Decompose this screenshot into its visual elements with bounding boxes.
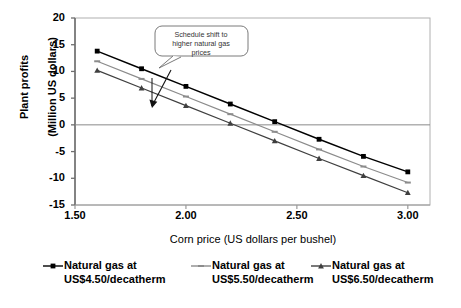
legend-label-line2: US$4.50/decatherm [64,272,166,286]
annotation-line-2: higher natural gas [160,39,242,48]
chart-legend: Natural gas atUS$4.50/decathermNatural g… [0,258,461,302]
series-1-point [228,102,233,107]
series-2-point [94,60,100,62]
legend-label-1: Natural gas atUS$4.50/decatherm [64,258,166,286]
legend-marker-icon [310,259,332,273]
series-2-point [360,166,366,168]
series-1-point [361,154,366,159]
series-2-point [272,131,278,133]
series-2-point [139,78,145,80]
series-2-point [316,148,322,150]
y-tick-label: 0 [25,119,65,130]
series-2-point [183,96,189,98]
x-tick-label: 2.00 [156,209,216,221]
chart-figure: Plant profits (Million US dollars) Corn … [0,0,461,308]
legend-item-2[interactable]: Natural gas atUS$5.50/decatherm [190,258,314,286]
legend-label-line2: US$5.50/decatherm [212,272,314,286]
series-1-point [405,169,410,174]
legend-label-line1: Natural gas at [332,258,434,272]
legend-label-3: Natural gas atUS$6.50/decatherm [332,258,434,286]
annotation-callout-text: Schedule shift to higher natural gas pri… [160,30,242,57]
series-1-point [95,49,100,54]
y-tick-label: 10 [25,65,65,76]
plot-frame [75,18,430,205]
annotation-line-1: Schedule shift to [160,30,242,39]
legend-label-line1: Natural gas at [64,258,166,272]
series-2-point [405,182,411,184]
series-1-point [184,84,189,89]
legend-marker-icon [42,259,64,273]
legend-marker-icon [190,259,212,273]
legend-item-1[interactable]: Natural gas atUS$4.50/decatherm [42,258,166,286]
y-tick-label: 15 [25,39,65,50]
series-2-point [227,113,233,115]
series-1-point [139,66,144,71]
legend-label-line2: US$6.50/decatherm [332,272,434,286]
y-tick-label: -5 [25,146,65,157]
series-1-point [317,137,322,142]
y-tick-label: -10 [25,172,65,183]
y-tick-label: 5 [25,92,65,103]
x-axis-title: Corn price (US dollars per bushel) [75,233,431,245]
y-tick-label: 20 [25,12,65,23]
legend-label-2: Natural gas atUS$5.50/decatherm [212,258,314,286]
x-tick-label: 1.50 [45,209,105,221]
annotation-line-3: prices [160,48,242,57]
legend-label-line1: Natural gas at [212,258,314,272]
x-tick-label: 3.00 [378,209,438,221]
legend-item-3[interactable]: Natural gas atUS$6.50/decatherm [310,258,434,286]
x-tick-label: 2.50 [267,209,327,221]
series-1-point [272,119,277,124]
